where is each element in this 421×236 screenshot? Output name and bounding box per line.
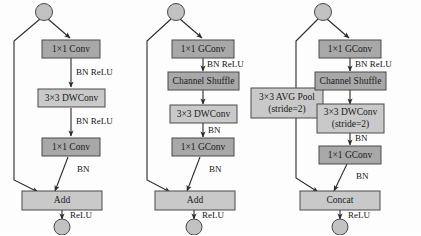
- panel-a: 1×1 Conv 3×3 DWConv 1×1 Conv Add BN ReLU…: [14, 4, 113, 236]
- input-node-c: [315, 4, 332, 21]
- block-c1-label: 1×1 GConv: [328, 44, 373, 54]
- input-node-b: [168, 4, 185, 21]
- edge-c-gconv2-to-concat: [334, 164, 347, 191]
- block-c0-sublabel: (stride=2): [268, 104, 306, 115]
- block-c2-label: Channel Shuffle: [320, 76, 382, 86]
- figure-canvas: 1×1 Conv 3×3 DWConv 1×1 Conv Add BN ReLU…: [0, 0, 421, 235]
- block-b4-label: 1×1 GConv: [181, 142, 226, 152]
- edge-label-c-e4: ReLU: [348, 210, 370, 220]
- block-c3-label: 3×3 DWConv: [324, 107, 378, 117]
- block-b1-label: 1×1 GConv: [181, 44, 226, 54]
- block-b5-label: Add: [187, 195, 204, 205]
- edge-b-gconv2-to-add: [187, 157, 200, 191]
- block-a4-label: Add: [54, 195, 71, 205]
- edge-label-c-e3: BN: [356, 171, 369, 181]
- block-b2-label: Channel Shuffle: [173, 76, 235, 86]
- edge-a-conv2-to-add: [55, 157, 68, 191]
- block-b3-label: 3×3 DWConv: [177, 109, 231, 119]
- skip-connection-b: [147, 19, 171, 192]
- block-c0-label: 3×3 AVG Pool: [259, 92, 315, 102]
- edge-label-b-e2: BN: [208, 125, 221, 135]
- output-node-c: [332, 219, 348, 235]
- edge-label-c-e2: BN: [355, 133, 368, 143]
- block-a1-label: 1×1 Conv: [52, 44, 90, 54]
- block-diagram-svg: 1×1 Conv 3×3 DWConv 1×1 Conv Add BN ReLU…: [0, 0, 421, 235]
- block-c4-label: 1×1 GConv: [328, 150, 373, 160]
- panel-b: 1×1 GConv Channel Shuffle 3×3 DWConv 1×1…: [147, 4, 244, 236]
- edge-label-a-e2: BN ReLU: [76, 116, 113, 126]
- input-node-a: [36, 4, 53, 21]
- block-a3-label: 1×1 Conv: [52, 142, 90, 152]
- edge-label-b-e1: BN ReLU: [207, 59, 244, 69]
- panel-c: 3×3 AVG Pool (stride=2) 1×1 GConv Channe…: [251, 4, 392, 236]
- output-node-a: [54, 219, 70, 235]
- edge-label-a-e4: ReLU: [70, 210, 92, 220]
- block-a2-label: 3×3 DWConv: [45, 93, 99, 103]
- output-node-b: [186, 219, 202, 235]
- block-c5-label: Concat: [327, 195, 354, 205]
- edge-c-avgpool-to-concat: [296, 118, 318, 192]
- edge-label-b-e3: BN: [209, 164, 222, 174]
- skip-connection-a: [14, 19, 40, 192]
- block-c3-sublabel: (stride=2): [332, 119, 370, 130]
- edge-c-node-to-gconv1: [327, 19, 349, 38]
- edge-label-a-e3: BN: [77, 164, 90, 174]
- edge-a-node-to-conv1: [48, 19, 70, 38]
- edge-label-a-e1: BN ReLU: [76, 67, 113, 77]
- edge-label-c-e1: BN ReLU: [355, 59, 392, 69]
- edge-label-b-e4: ReLU: [202, 210, 224, 220]
- edge-b-node-to-gconv1: [180, 19, 202, 38]
